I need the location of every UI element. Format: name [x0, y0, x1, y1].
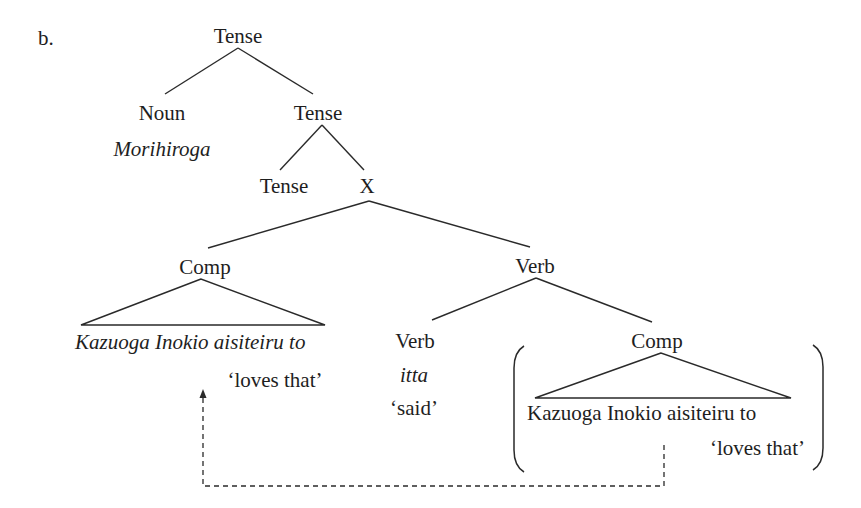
edge-root-noun: [165, 48, 238, 94]
node-tense-root: Tense: [214, 24, 263, 48]
edge-x-comp: [208, 201, 369, 248]
word-morihiroga: Morihiroga: [112, 137, 210, 161]
clause-right: Kazuoga Inokio aisiteiru to: [527, 401, 756, 425]
edge-tensebar-x: [322, 125, 364, 170]
node-verb-head: Verb: [395, 329, 435, 353]
edge-root-tense: [238, 48, 313, 94]
node-tense-bar: Tense: [294, 101, 343, 125]
node-tense-head: Tense: [260, 174, 309, 198]
word-itta: itta: [400, 363, 428, 387]
node-verb-phrase: Verb: [515, 254, 555, 278]
arrowhead-up-icon: [200, 389, 207, 398]
clause-left-italic: Kazuoga Inokio aisiteiru to: [74, 330, 305, 354]
gloss-said: ‘said’: [390, 396, 438, 420]
edge-verb-verbhead: [432, 278, 536, 320]
gloss-left: ‘loves that’: [227, 368, 322, 392]
node-comp-left: Comp: [179, 255, 230, 279]
edge-verb-comp: [536, 278, 652, 322]
example-label: b.: [38, 26, 54, 50]
left-paren-icon: [514, 346, 524, 472]
triangle-comp-left: [81, 279, 325, 325]
edge-x-verb: [369, 201, 530, 247]
tree-svg: b. Tense Noun Morihiroga Tense Tense X C…: [0, 0, 861, 508]
right-paren-icon: [813, 345, 823, 470]
syntax-tree-diagram: b. Tense Noun Morihiroga Tense Tense X C…: [0, 0, 861, 508]
edge-tensebar-tensehead: [280, 125, 322, 170]
node-noun: Noun: [139, 101, 186, 125]
triangle-comp-right: [535, 353, 791, 398]
node-comp-right: Comp: [631, 329, 682, 353]
gloss-right: ‘loves that’: [710, 436, 805, 460]
node-x: X: [359, 174, 374, 198]
